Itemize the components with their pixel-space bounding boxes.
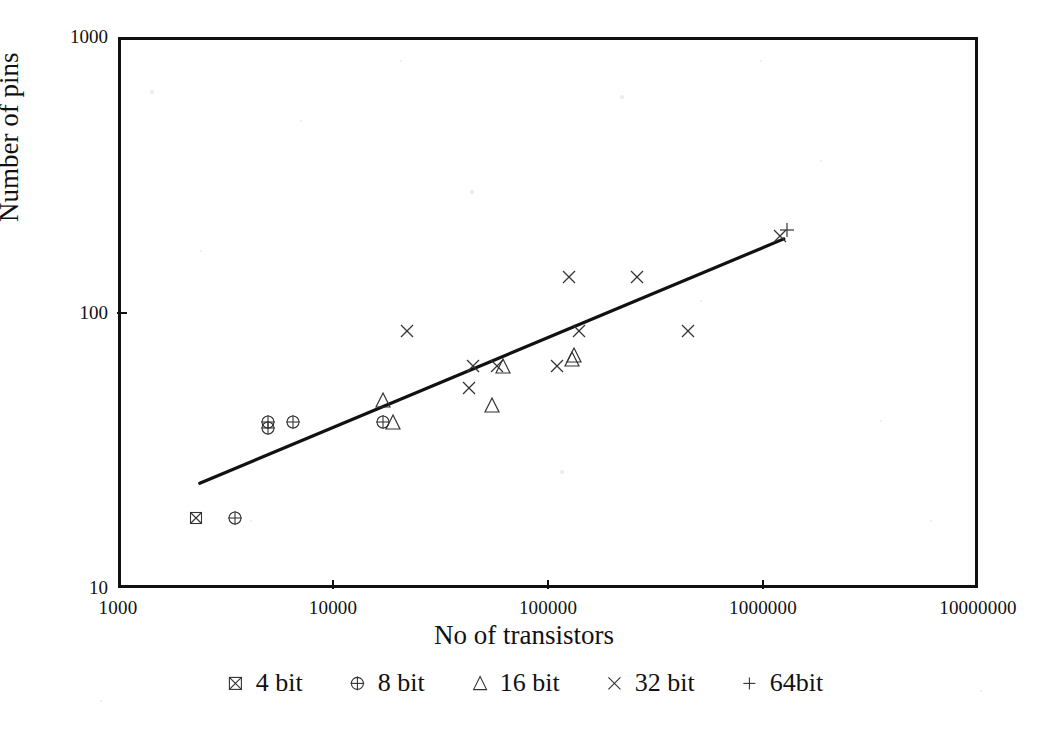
y-tick-label: 10 — [46, 577, 108, 599]
paper-speckle — [560, 470, 564, 474]
x-tick-mark — [332, 580, 334, 589]
paper-speckle — [150, 90, 154, 94]
legend-entry-4bit[interactable]: 4 bit — [225, 668, 303, 698]
plus-icon — [739, 672, 761, 694]
x-tick-label: 1000 — [99, 597, 138, 619]
y-tick-mark — [117, 312, 127, 314]
paper-speckle — [980, 690, 982, 692]
chart-root: 100010000100000100000010000000 101001000… — [0, 0, 1048, 739]
x-tick-label: 10000000 — [939, 597, 1017, 619]
circle-plus-icon — [347, 672, 369, 694]
y-axis-title: Number of pins — [0, 53, 25, 222]
chart-legend: 4 bit 8 bit16 bit 32 bit 64bit — [0, 668, 1048, 698]
square-x-icon — [225, 672, 247, 694]
x-tick-label: 10000 — [309, 597, 358, 619]
x-axis-title: No of transistors — [0, 620, 1048, 651]
legend-entry-8bit[interactable]: 8 bit — [347, 668, 425, 698]
paper-speckle — [930, 520, 932, 522]
legend-label: 16 bit — [500, 668, 560, 698]
paper-speckle — [700, 300, 702, 302]
cross-x-icon — [604, 672, 626, 694]
legend-label: 64bit — [770, 668, 823, 698]
paper-speckle — [620, 95, 624, 99]
triangle-icon — [469, 672, 491, 694]
paper-speckle — [880, 420, 882, 422]
legend-label: 8 bit — [378, 668, 425, 698]
x-tick-label: 1000000 — [729, 597, 797, 619]
x-tick-mark — [762, 580, 764, 589]
paper-speckle — [820, 160, 822, 162]
legend-entry-16bit[interactable]: 16 bit — [469, 668, 560, 698]
paper-speckle — [200, 250, 202, 252]
paper-speckle — [400, 60, 402, 62]
paper-speckle — [470, 190, 474, 194]
paper-speckle — [300, 120, 302, 122]
legend-label: 32 bit — [635, 668, 695, 698]
x-tick-mark — [547, 580, 549, 589]
legend-label: 4 bit — [256, 668, 303, 698]
y-tick-label: 100 — [46, 302, 108, 324]
paper-speckle — [100, 700, 102, 702]
y-tick-label: 1000 — [46, 26, 108, 48]
legend-entry-32bit[interactable]: 32 bit — [604, 668, 695, 698]
paper-speckle — [760, 60, 762, 62]
legend-entry-64bit[interactable]: 64bit — [739, 668, 823, 698]
plot-area — [118, 37, 978, 588]
paper-speckle — [250, 520, 252, 522]
x-tick-label: 100000 — [519, 597, 577, 619]
trend-line — [118, 37, 978, 588]
